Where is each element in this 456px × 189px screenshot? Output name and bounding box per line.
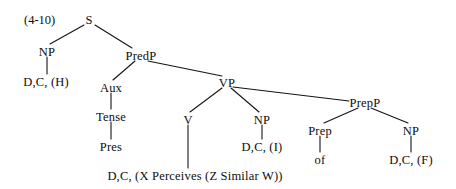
- branch-prepp-np: [371, 108, 408, 123]
- node-np-prep: NP: [403, 125, 419, 138]
- node-prep: Prep: [308, 125, 332, 138]
- node-v: V: [183, 114, 192, 127]
- node-vp: VP: [219, 77, 235, 90]
- branch-vp-prepp: [233, 87, 349, 101]
- tree-branches: [0, 0, 456, 189]
- leaf-prep: of: [315, 154, 326, 167]
- leaf-np-prep: D,C, (F): [389, 154, 433, 167]
- leaf-np-object: D,C, (I): [242, 141, 283, 154]
- syntax-tree-figure: (4-10) S NP D,C, (H) PredP Aux Tense Pre…: [0, 0, 456, 189]
- node-s: S: [85, 14, 92, 27]
- branch-vp-np: [231, 88, 259, 112]
- leaf-np-subject: D,C, (H): [23, 76, 69, 89]
- node-prepp: PrepP: [350, 97, 381, 110]
- branch-vp-v: [190, 88, 222, 112]
- branch-predp-vp: [148, 61, 222, 76]
- branch-predp-aux: [113, 61, 135, 80]
- branch-prepp-prep: [324, 108, 358, 123]
- node-np-subject: NP: [39, 46, 55, 59]
- branch-s-np: [50, 25, 84, 44]
- leaf-v: D,C, (X Perceives (Z Similar W)): [107, 170, 282, 183]
- leaf-pres: Pres: [100, 141, 122, 154]
- node-predp: PredP: [126, 50, 157, 63]
- branch-s-predp: [95, 25, 132, 48]
- node-np-object: NP: [254, 114, 270, 127]
- example-number-label: (4-10): [24, 14, 55, 27]
- node-tense: Tense: [96, 111, 126, 124]
- node-aux: Aux: [100, 82, 122, 95]
